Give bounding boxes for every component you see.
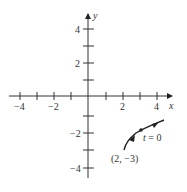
y-tick-label-neg4: −4 — [70, 163, 81, 174]
start-point-label: (2, −3) — [111, 153, 138, 165]
y-tick-label-2: 2 — [75, 58, 80, 69]
x-tick-label-neg4: −4 — [14, 101, 25, 112]
y-tick-label-neg2: −2 — [70, 128, 81, 139]
t0-label: t = 0 — [143, 132, 161, 143]
coordinate-plot: −4 −2 2 4 x 4 2 −2 −4 y t = 0 (2, −3) — [0, 0, 187, 192]
x-tick-label-2: 2 — [120, 101, 125, 112]
x-tick-label-4: 4 — [154, 101, 159, 112]
x-tick-label-neg2: −2 — [48, 101, 59, 112]
x-axis-label: x — [168, 100, 174, 111]
y-axis-label: y — [92, 10, 98, 21]
y-tick-label-4: 4 — [75, 24, 80, 35]
diagram-canvas: −4 −2 2 4 x 4 2 −2 −4 y t = 0 (2, −3) — [0, 0, 187, 192]
